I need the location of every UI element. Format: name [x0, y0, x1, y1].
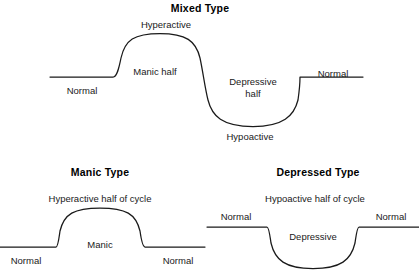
depressed-type-right-normal-label: Normal [376, 211, 407, 222]
mixed-type-peak-label: Hyperactive [141, 19, 191, 30]
depressed-type-left-normal-label: Normal [221, 211, 252, 222]
depressed-type-title: Depressed Type [276, 166, 359, 178]
mixed-type-title: Mixed Type [171, 2, 229, 14]
mixed-type-left-normal-label: Normal [67, 85, 98, 96]
mixed-type-depressive-half-label-line1: Depressive [229, 76, 277, 87]
mixed-type-depressive-half-label-line2: half [245, 88, 260, 99]
mixed-type-manic-half-label: Manic half [133, 66, 176, 77]
manic-type-left-normal-label: Normal [11, 255, 42, 266]
mixed-type-curve [50, 34, 363, 127]
diagram-page: Mixed Type Hyperactive Normal Manic half… [0, 0, 419, 280]
manic-type-right-normal-label: Normal [163, 255, 194, 266]
manic-type-title: Manic Type [71, 166, 129, 178]
depressed-type-trough-label: Depressive [289, 231, 337, 242]
depressed-type-cycle-label: Hypoactive half of cycle [265, 193, 365, 204]
waveform-artwork [0, 0, 419, 280]
mixed-type-right-normal-label: Normal [318, 68, 349, 79]
mixed-type-trough-label: Hypoactive [227, 131, 274, 142]
manic-type-cycle-label: Hyperactive half of cycle [49, 193, 152, 204]
manic-type-hump-label: Manic [87, 239, 112, 250]
